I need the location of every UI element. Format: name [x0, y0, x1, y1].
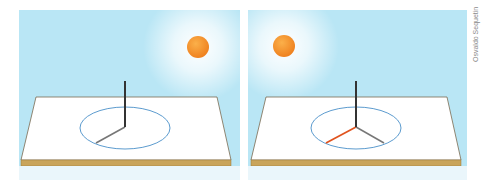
sun-icon	[187, 36, 209, 58]
image-credit: Osvaldo Sequetin	[472, 7, 479, 62]
panel-left	[19, 10, 240, 180]
sundial-diagram-left	[19, 10, 240, 180]
panel-right	[248, 10, 467, 180]
sundial-diagram-right	[248, 10, 467, 180]
sun-icon	[273, 35, 295, 57]
